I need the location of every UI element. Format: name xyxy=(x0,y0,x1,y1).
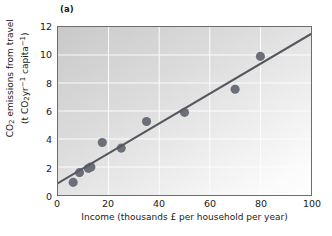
y-axis-unit-open: (t CO xyxy=(20,101,30,124)
y-axis-unit-sup1: −1 xyxy=(19,77,27,87)
y-axis-title-co: CO xyxy=(5,124,15,137)
data-point xyxy=(142,117,151,126)
panel-label: (a) xyxy=(60,4,74,14)
y-axis-title: CO2 emissions from travel (t CO2yr−1 cap… xyxy=(5,0,33,171)
ytick-label-4: 4 xyxy=(32,134,52,145)
ytick-label-2: 2 xyxy=(32,163,52,174)
xtick-label-60: 60 xyxy=(200,198,220,209)
data-point xyxy=(69,178,78,187)
y-axis-title-co-sub: 2 xyxy=(8,119,16,123)
ytick-label-12: 12 xyxy=(32,21,52,32)
data-point xyxy=(231,85,240,94)
xtick-label-40: 40 xyxy=(149,198,169,209)
y-axis-unit-sub: 2 xyxy=(23,96,31,100)
figure-panel-a: (a) 12 10 8 6 4 2 0 0 20 40 60 80 100 In… xyxy=(0,0,332,236)
plot-area xyxy=(57,26,312,196)
y-axis-unit-close: ) xyxy=(20,32,30,36)
xtick-label-0: 0 xyxy=(47,198,67,209)
data-layer xyxy=(58,27,311,195)
ytick-label-6: 6 xyxy=(32,106,52,117)
data-point xyxy=(98,138,107,147)
y-axis-unit-yr: yr xyxy=(20,87,30,96)
xtick-label-100: 100 xyxy=(302,198,322,209)
y-axis-unit-sup2: −1 xyxy=(19,36,27,46)
xtick-label-80: 80 xyxy=(251,198,271,209)
x-axis-title: Income (thousands £ per household per ye… xyxy=(57,212,312,222)
xtick-label-20: 20 xyxy=(98,198,118,209)
y-axis-unit-capita: capita xyxy=(20,46,30,77)
y-axis-title-rest: emissions from travel xyxy=(5,19,15,119)
ytick-label-8: 8 xyxy=(32,78,52,89)
ytick-label-10: 10 xyxy=(32,49,52,60)
trend-line xyxy=(58,34,311,183)
data-point xyxy=(256,52,265,61)
